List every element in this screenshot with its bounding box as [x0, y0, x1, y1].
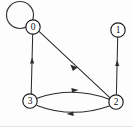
edge-0-to-2: [39, 32, 110, 98]
node-2[interactable]: 2: [109, 95, 123, 109]
node-3-circle[interactable]: [23, 94, 37, 108]
node-1-circle[interactable]: [111, 23, 125, 37]
arrowhead-2-1: [115, 60, 119, 66]
node-0-circle[interactable]: [26, 20, 40, 34]
edge-line-0-2: [39, 32, 110, 98]
graph-figure: 0 1 2 3: [0, 0, 133, 127]
node-0[interactable]: 0: [26, 20, 40, 34]
node-1[interactable]: 1: [111, 23, 125, 37]
arrowhead-3-0: [30, 58, 34, 64]
edge-curve-3-2: [37, 92, 109, 99]
edge-3-to-0: [30, 34, 34, 94]
node-3[interactable]: 3: [23, 94, 37, 108]
node-2-circle[interactable]: [109, 95, 123, 109]
arrowhead-0-2: [70, 65, 77, 71]
edge-2-to-3: [37, 105, 109, 116]
edge-curve-2-3: [37, 105, 109, 112]
edge-2-to-1: [115, 37, 119, 95]
edge-3-to-2: [37, 88, 109, 99]
bottom-divider: [0, 126, 133, 127]
graph-canvas: 0 1 2 3: [0, 0, 133, 127]
edge-line-3-0: [31, 34, 33, 94]
